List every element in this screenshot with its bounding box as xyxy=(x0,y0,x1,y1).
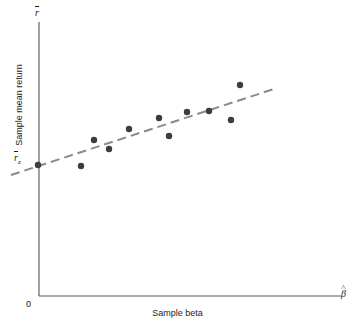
x-axis-end-symbol: ^β xyxy=(341,289,346,299)
plot-canvas xyxy=(0,0,355,326)
data-point xyxy=(237,82,243,88)
y-axis-title-text: Sample mean return xyxy=(15,64,24,146)
origin-label: 0 xyxy=(26,300,31,309)
data-point xyxy=(228,117,234,123)
data-point xyxy=(106,146,112,152)
scatter-chart-figure: r Sample mean return rz 0 Sample beta ^β xyxy=(0,0,355,326)
hat-accent-icon: ^ xyxy=(341,284,345,293)
data-point xyxy=(91,137,97,143)
intercept-label: rz xyxy=(14,153,21,166)
y-axis-end-symbol: r xyxy=(35,8,39,18)
data-point xyxy=(126,126,132,132)
x-axis-title-text: Sample beta xyxy=(152,308,203,318)
data-point xyxy=(166,133,172,139)
y-axis-end-symbol-text: r xyxy=(35,7,39,18)
x-axis-title: Sample beta xyxy=(0,309,355,318)
data-point xyxy=(184,109,190,115)
fitted-regression-line xyxy=(11,88,277,175)
data-point xyxy=(35,162,41,168)
y-axis-title: Sample mean return xyxy=(12,45,26,165)
intercept-subscript-text: z xyxy=(18,158,21,166)
intercept-symbol-text: r xyxy=(14,152,18,163)
data-point xyxy=(156,115,162,121)
data-point xyxy=(206,108,212,114)
data-point xyxy=(78,163,84,169)
